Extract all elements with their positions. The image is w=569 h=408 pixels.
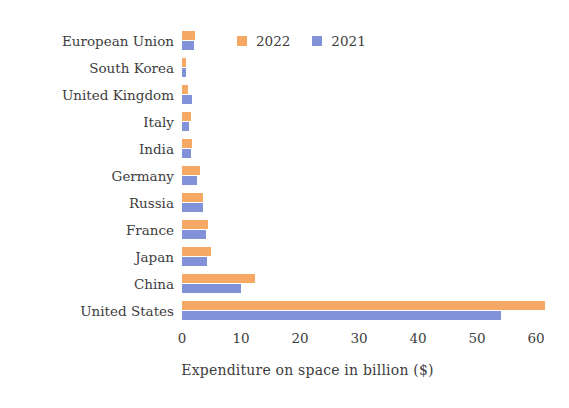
bar-2021	[182, 311, 501, 320]
bar-group	[182, 271, 545, 298]
y-axis-category-labels: European UnionSouth KoreaUnited KingdomI…	[8, 28, 174, 325]
y-axis-label: South Korea	[8, 55, 174, 82]
x-axis-title: Expenditure on space in billion ($)	[0, 362, 569, 378]
bar-2022	[182, 301, 545, 310]
bar-group	[182, 298, 545, 325]
x-axis-title-text: Expenditure on space in billion ($)	[135, 362, 433, 378]
legend-item[interactable]: 2021	[312, 33, 365, 49]
bar-2022	[182, 247, 211, 256]
bar-group	[182, 136, 545, 163]
bar-group	[182, 163, 545, 190]
chart-legend: 20222021	[237, 32, 366, 50]
x-tick-label: 30	[350, 330, 367, 346]
bar-2021	[182, 95, 192, 104]
bar-2022	[182, 166, 200, 175]
x-tick-label: 40	[409, 330, 426, 346]
y-axis-label: United States	[8, 298, 174, 325]
bar-2022	[182, 112, 191, 121]
bar-2021	[182, 230, 206, 239]
legend-label: 2022	[256, 33, 290, 49]
bar-2021	[182, 284, 241, 293]
bar-2021	[182, 176, 197, 185]
bar-2022	[182, 31, 195, 40]
bar-group	[182, 82, 545, 109]
legend-label: 2021	[331, 33, 365, 49]
bar-2022	[182, 85, 188, 94]
y-axis-label: China	[8, 271, 174, 298]
bar-2022	[182, 139, 192, 148]
bar-2022	[182, 58, 186, 67]
y-axis-label: India	[8, 136, 174, 163]
x-tick-label: 60	[527, 330, 544, 346]
bar-group	[182, 109, 545, 136]
bar-2021	[182, 68, 186, 77]
y-axis-label: Germany	[8, 163, 174, 190]
y-axis-label: Italy	[8, 109, 174, 136]
bar-2022	[182, 220, 208, 229]
bar-group	[182, 55, 545, 82]
x-tick-label: 0	[178, 330, 187, 346]
x-tick-label: 50	[468, 330, 485, 346]
bar-2021	[182, 257, 207, 266]
x-axis-ticks: 0102030405060	[0, 330, 569, 350]
y-axis-label: European Union	[8, 28, 174, 55]
legend-swatch-icon	[237, 36, 247, 46]
bar-2021	[182, 149, 191, 158]
bar-group	[182, 190, 545, 217]
bar-group	[182, 244, 545, 271]
bar-2022	[182, 274, 255, 283]
bar-group	[182, 217, 545, 244]
y-axis-label: Japan	[8, 244, 174, 271]
plot-area	[182, 28, 545, 325]
y-axis-label: France	[8, 217, 174, 244]
x-tick-label: 10	[232, 330, 249, 346]
y-axis-label: United Kingdom	[8, 82, 174, 109]
bar-2021	[182, 203, 203, 212]
bar-2021	[182, 122, 189, 131]
legend-swatch-icon	[312, 36, 322, 46]
legend-item[interactable]: 2022	[237, 33, 290, 49]
bar-chart: European UnionSouth KoreaUnited KingdomI…	[0, 0, 569, 408]
bar-2022	[182, 193, 203, 202]
x-tick-label: 20	[291, 330, 308, 346]
bar-2021	[182, 41, 194, 50]
y-axis-label: Russia	[8, 190, 174, 217]
